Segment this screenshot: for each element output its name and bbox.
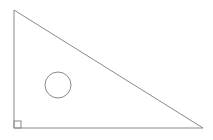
geometry-diagram-svg <box>0 0 213 140</box>
geometry-figure-canvas <box>0 0 213 140</box>
